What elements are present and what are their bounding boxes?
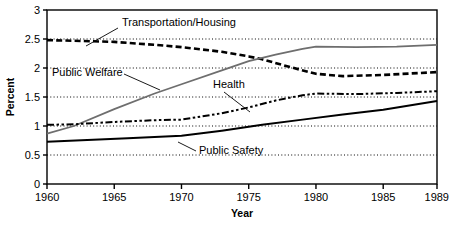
x-tick-label: 1975 — [236, 191, 260, 203]
x-tick-label: 1985 — [371, 191, 395, 203]
y-tick-label: 0.5 — [25, 149, 40, 161]
y-tick-label: 0 — [34, 178, 40, 190]
annotation-leader — [178, 142, 196, 151]
y-tick-label: 3 — [34, 4, 40, 16]
x-tick-label: 1970 — [169, 191, 193, 203]
annotation-label: Health — [213, 78, 245, 90]
y-tick-label: 2.5 — [25, 33, 40, 45]
line-chart: 00.511.522.53196019651970197519801985198… — [0, 0, 454, 227]
series-line-public-safety — [47, 101, 437, 142]
x-tick-label: 1965 — [102, 191, 126, 203]
annotation-leader — [86, 28, 118, 46]
x-tick-label: 1960 — [35, 191, 59, 203]
y-tick-label: 2 — [34, 62, 40, 74]
x-tick-label: 1980 — [304, 191, 328, 203]
y-axis-title: Percent — [4, 77, 16, 116]
y-tick-label: 1.5 — [25, 91, 40, 103]
annotation-label: Public Safety — [199, 144, 264, 156]
annotation-leader — [124, 74, 160, 90]
annotation-label: Public Welfare — [52, 66, 123, 78]
x-tick-label: 1989 — [425, 191, 449, 203]
x-axis-title: Year — [231, 207, 253, 219]
series-line-health — [47, 91, 437, 125]
y-tick-label: 1 — [34, 120, 40, 132]
chart-container: 00.511.522.53196019651970197519801985198… — [0, 0, 454, 227]
annotation-label: Transportation/Housing — [122, 16, 236, 28]
